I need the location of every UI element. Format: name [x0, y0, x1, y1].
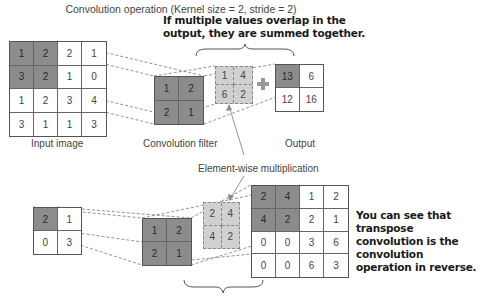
elementwise-cell: 2: [234, 85, 252, 103]
transpose-output-cell: 3: [300, 232, 324, 255]
filter-cell: 2: [155, 101, 179, 125]
filter-cell: 1: [179, 101, 203, 125]
bottom-note: You can see that transpose convolution i…: [356, 209, 504, 274]
transpose-output-cell: 0: [252, 232, 276, 255]
transpose-input-cell: 0: [34, 231, 58, 254]
elementwise-cell: 1: [216, 67, 234, 85]
transpose-filter-cell: 2: [143, 242, 167, 265]
input-cell: 1: [34, 113, 58, 137]
elementwise-product-grid: 1 4 6 2: [215, 66, 253, 104]
bottom-note-line-2: convolution is the convolution: [356, 235, 504, 261]
transpose-output-cell: 2: [324, 186, 348, 209]
top-note-line-1: If multiple values overlap in the: [163, 14, 365, 27]
filter-cell: 2: [179, 77, 203, 101]
input-cell: 2: [34, 42, 58, 66]
input-image-label: Input image: [31, 138, 83, 149]
output-grid: 13 6 12 16: [275, 64, 324, 112]
transpose-output-cell: 4: [276, 186, 300, 209]
input-cell: 1: [10, 89, 34, 113]
transpose-filter-cell: 2: [167, 219, 191, 242]
top-note-line-2: output, they are summed together.: [163, 27, 365, 40]
transpose-output-cell: 2: [276, 209, 300, 232]
input-cell: 2: [34, 66, 58, 90]
input-cell: 1: [82, 42, 106, 66]
transpose-elementwise-grid: 2 4 4 2: [203, 202, 240, 249]
output-cell: 12: [276, 88, 300, 111]
transpose-input-cell: 1: [58, 208, 82, 231]
input-cell: 1: [58, 66, 82, 90]
transpose-filter-cell: 1: [167, 242, 191, 265]
transpose-output-cell: 0: [276, 254, 300, 277]
input-cell: 3: [10, 66, 34, 90]
transpose-input-cell: 2: [34, 208, 58, 231]
input-cell: 3: [10, 113, 34, 137]
transpose-output-cell: 2: [252, 186, 276, 209]
transpose-output-cell: 1: [324, 209, 348, 232]
input-image-grid: 1 2 2 1 3 2 1 0 1 2 3 4 3 1 1 3: [9, 41, 107, 137]
input-cell: 4: [82, 89, 106, 113]
output-cell: 6: [300, 65, 324, 88]
input-cell: 2: [58, 42, 82, 66]
convolution-filter-grid: 1 2 2 1: [154, 76, 204, 125]
convolution-filter-label: Convolution filter: [143, 138, 217, 149]
transpose-elementwise-cell: 4: [222, 203, 240, 226]
transpose-output-cell: 2: [300, 209, 324, 232]
input-cell: 2: [34, 89, 58, 113]
elementwise-cell: 4: [234, 67, 252, 85]
transpose-output-grid: 2 4 1 2 4 2 2 1 0 0 3 6 0 0 6 3: [251, 185, 349, 278]
transpose-filter-cell: 1: [143, 219, 167, 242]
transpose-output-cell: 0: [252, 254, 276, 277]
transpose-output-cell: 3: [324, 254, 348, 277]
transpose-input-grid: 2 1 0 3: [33, 207, 82, 255]
transpose-output-cell: 1: [300, 186, 324, 209]
transpose-input-cell: 3: [58, 231, 82, 254]
input-cell: 1: [10, 42, 34, 66]
top-note: If multiple values overlap in the output…: [163, 14, 365, 40]
elementwise-cell: 6: [216, 85, 234, 103]
input-cell: 3: [58, 89, 82, 113]
transpose-elementwise-cell: 4: [204, 226, 222, 249]
output-cell: 13: [276, 65, 300, 88]
transpose-output-cell: 6: [300, 254, 324, 277]
transpose-output-cell: 0: [276, 232, 300, 255]
filter-cell: 1: [155, 77, 179, 101]
elementwise-label: Element-wise multiplication: [198, 163, 319, 174]
transpose-output-cell: 6: [324, 232, 348, 255]
output-cell: 16: [300, 88, 324, 111]
transpose-elementwise-cell: 2: [204, 203, 222, 226]
transpose-filter-grid: 1 2 2 1: [142, 218, 192, 266]
input-cell: 0: [82, 66, 106, 90]
transpose-elementwise-cell: 2: [222, 226, 240, 249]
bottom-note-line-1: You can see that transpose: [356, 209, 504, 235]
transpose-output-cell: 4: [252, 209, 276, 232]
input-cell: 3: [82, 113, 106, 137]
plus-icon: [257, 78, 269, 90]
bottom-note-line-3: operation in reverse.: [356, 261, 504, 274]
output-label: Output: [285, 138, 315, 149]
input-cell: 1: [58, 113, 82, 137]
